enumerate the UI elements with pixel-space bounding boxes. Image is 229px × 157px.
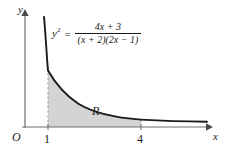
origin-label: O [12, 131, 21, 143]
x-tick-label-4: 4 [137, 133, 143, 145]
fraction-numerator: 4x + 3 [92, 22, 124, 33]
curve-equation: y2 = 4x + 3 (x + 2)(2x − 1) [52, 22, 141, 45]
figure-container: y x O 1 4 R y2 = 4x + 3 (x + 2)(2x − 1) [0, 0, 229, 157]
equals-sign: = [64, 28, 70, 40]
region-label-r: R [92, 105, 99, 117]
x-tick-label-1: 1 [44, 133, 50, 145]
equation-fraction: 4x + 3 (x + 2)(2x − 1) [75, 22, 142, 45]
fraction-denominator: (x + 2)(2x − 1) [75, 34, 142, 45]
y-axis-label: y [18, 4, 23, 15]
x-axis-arrowhead [206, 123, 213, 131]
x-axis-label: x [213, 131, 218, 142]
equation-left-hand-side: y2 [52, 28, 60, 39]
equation-exponent: 2 [57, 26, 61, 34]
